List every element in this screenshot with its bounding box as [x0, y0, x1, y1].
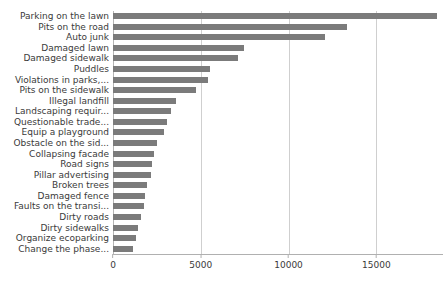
- y-axis-label: Change the phase...: [0, 243, 109, 253]
- bar-row: [113, 22, 443, 32]
- bar-row: [113, 138, 443, 148]
- bar-row: [113, 43, 443, 53]
- y-axis-label: Broken trees: [0, 180, 109, 190]
- y-axis-labels: Parking on the lawnPits on the roadAuto …: [0, 11, 109, 254]
- x-axis-tick-label: 5000: [189, 260, 212, 271]
- bar-row: [113, 191, 443, 201]
- bar[interactable]: [113, 193, 145, 199]
- bar[interactable]: [113, 161, 152, 167]
- bar-row: [113, 159, 443, 169]
- x-axis-tick-label: 15000: [362, 260, 391, 271]
- y-axis-label: Questionable trade...: [0, 117, 109, 127]
- y-axis-label: Dirty roads: [0, 212, 109, 222]
- bar-row: [113, 127, 443, 137]
- bar[interactable]: [113, 129, 164, 135]
- bar[interactable]: [113, 140, 157, 146]
- bar[interactable]: [113, 246, 133, 252]
- y-axis-label: Violations in parks,...: [0, 74, 109, 84]
- bar-row: [113, 106, 443, 116]
- bar-row: [113, 180, 443, 190]
- bar-row: [113, 32, 443, 42]
- bar-row: [113, 11, 443, 21]
- bar[interactable]: [113, 87, 196, 93]
- bar[interactable]: [113, 214, 141, 220]
- y-axis-label: Collapsing facade: [0, 148, 109, 158]
- bar[interactable]: [113, 119, 167, 125]
- x-axis-tick-label: 0: [110, 260, 116, 271]
- tick-mark: [376, 254, 377, 258]
- tick-mark: [112, 254, 113, 258]
- bar-row: [113, 74, 443, 84]
- bar[interactable]: [113, 182, 147, 188]
- bar-row: [113, 53, 443, 63]
- bar[interactable]: [113, 98, 176, 104]
- y-axis-label: Parking on the lawn: [0, 11, 109, 21]
- bar[interactable]: [113, 172, 151, 178]
- bar[interactable]: [113, 235, 136, 241]
- bar[interactable]: [113, 151, 154, 157]
- y-axis-label: Pits on the sidewalk: [0, 85, 109, 95]
- y-axis-label: Damaged sidewalk: [0, 53, 109, 63]
- y-axis-label: Faults on the transi...: [0, 201, 109, 211]
- y-axis-label: Damaged lawn: [0, 43, 109, 53]
- plot-area: [113, 11, 443, 254]
- x-axis-tick: 5000: [189, 254, 212, 271]
- bar[interactable]: [113, 77, 208, 83]
- bar-row: [113, 96, 443, 106]
- y-axis-label: Landscaping requir...: [0, 106, 109, 116]
- bar[interactable]: [113, 34, 325, 40]
- x-axis-tick-label: 10000: [274, 260, 303, 271]
- x-axis-tick: 10000: [274, 254, 303, 271]
- bar[interactable]: [113, 225, 138, 231]
- x-axis-tick: 0: [110, 254, 116, 271]
- y-axis-label: Obstacle on the sid...: [0, 138, 109, 148]
- tick-mark: [200, 254, 201, 258]
- bar-row: [113, 243, 443, 253]
- bar-row: [113, 212, 443, 222]
- x-axis-tick: 15000: [362, 254, 391, 271]
- bar-row: [113, 117, 443, 127]
- bar-row: [113, 201, 443, 211]
- y-axis-label: Illegal landfill: [0, 96, 109, 106]
- y-axis-label: Pits on the road: [0, 22, 109, 32]
- y-axis-label: Pillar advertising: [0, 169, 109, 179]
- bar[interactable]: [113, 45, 244, 51]
- bar-chart: Parking on the lawnPits on the roadAuto …: [0, 0, 448, 283]
- bar[interactable]: [113, 13, 437, 19]
- bar-row: [113, 169, 443, 179]
- tick-mark: [288, 254, 289, 258]
- y-axis-label: Organize ecoparking: [0, 233, 109, 243]
- y-axis-label: Damaged fence: [0, 191, 109, 201]
- bar-row: [113, 85, 443, 95]
- bar-row: [113, 222, 443, 232]
- x-axis-ticks: 050001000015000: [0, 254, 448, 283]
- y-axis-label: Equip a playground: [0, 127, 109, 137]
- bar[interactable]: [113, 24, 347, 30]
- y-axis-label: Dirty sidewalks: [0, 222, 109, 232]
- y-axis-label: Auto junk: [0, 32, 109, 42]
- bar-rows: [113, 11, 443, 254]
- y-axis-label: Road signs: [0, 159, 109, 169]
- bar[interactable]: [113, 203, 144, 209]
- bar-row: [113, 64, 443, 74]
- bar-row: [113, 148, 443, 158]
- y-axis-label: Puddles: [0, 64, 109, 74]
- bar[interactable]: [113, 66, 210, 72]
- bar-row: [113, 233, 443, 243]
- bar[interactable]: [113, 108, 171, 114]
- bar[interactable]: [113, 55, 238, 61]
